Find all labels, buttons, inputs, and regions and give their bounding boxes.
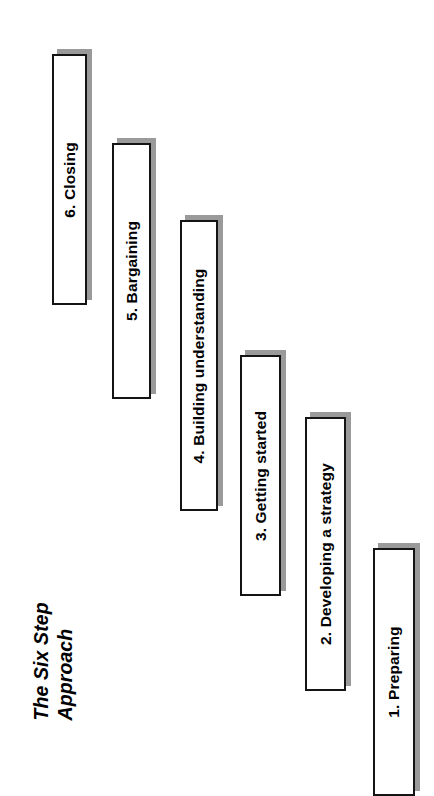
step-5-bargaining[interactable]: 5. Bargaining [112, 143, 151, 399]
step-1-preparing[interactable]: 1. Preparing [373, 548, 415, 796]
step-label-wrap: 1. Preparing [373, 548, 415, 796]
step-4-building-understanding[interactable]: 4. Building understanding [180, 220, 218, 511]
step-label-wrap: 5. Bargaining [112, 143, 151, 399]
step-6-closing[interactable]: 6. Closing [52, 54, 87, 305]
step-label: 2. Developing a strategy [318, 417, 334, 691]
step-label: 4. Building understanding [191, 220, 207, 511]
step-label: 1. Preparing [386, 548, 402, 796]
step-label-wrap: 2. Developing a strategy [305, 417, 346, 691]
step-2-developing-a-strategy[interactable]: 2. Developing a strategy [305, 417, 346, 691]
step-label: 5. Bargaining [124, 143, 140, 399]
step-label-wrap: 3. Getting started [240, 355, 281, 596]
step-label: 3. Getting started [253, 355, 269, 596]
step-3-getting-started[interactable]: 3. Getting started [240, 355, 281, 596]
diagram-title-line-1: The Six Step [29, 535, 53, 720]
diagram-title-line-2: Approach [53, 535, 77, 720]
diagram-title-rotated: The Six Step Approach [29, 535, 77, 720]
step-label: 6. Closing [62, 54, 78, 305]
step-label-wrap: 6. Closing [52, 54, 87, 305]
step-label-wrap: 4. Building understanding [180, 220, 218, 511]
diagram-title: The Six Step Approach [22, 535, 84, 720]
